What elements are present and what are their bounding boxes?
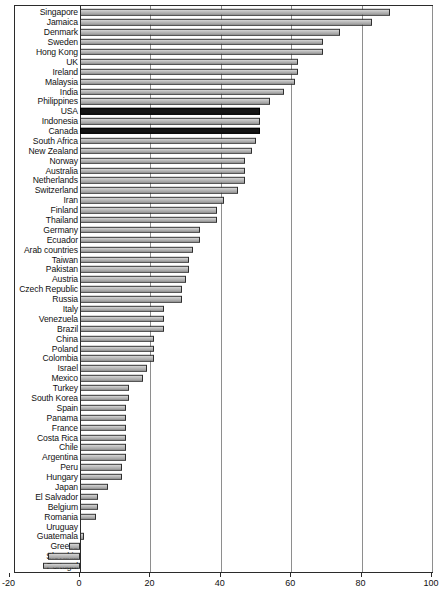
bar <box>80 504 98 510</box>
bar <box>80 148 252 154</box>
bar <box>80 266 189 272</box>
category-label: Australia <box>45 166 78 175</box>
bar <box>80 286 182 292</box>
x-tick-40 <box>220 573 221 577</box>
category-label: Japan <box>55 482 78 491</box>
bar <box>80 187 238 193</box>
category-label: Finland <box>51 206 79 215</box>
category-label: New Zealand <box>28 146 78 155</box>
bar <box>80 217 217 223</box>
bar <box>43 563 80 569</box>
category-label: Colombia <box>42 354 78 363</box>
bar <box>80 494 98 500</box>
category-label: Italy <box>63 305 78 314</box>
category-label: Sweden <box>48 38 78 47</box>
category-label: India <box>60 87 78 96</box>
bar-row: Denmark <box>15 27 432 37</box>
bar <box>80 276 186 282</box>
bar <box>80 138 256 144</box>
bar <box>80 296 182 302</box>
plot-area: SingaporeJamaicaDenmarkSwedenHong KongUK… <box>14 5 433 573</box>
x-tick-label: 100 <box>423 578 438 588</box>
bar <box>80 158 245 164</box>
bar <box>80 454 126 460</box>
bar <box>80 355 154 361</box>
category-label: Belgium <box>48 502 78 511</box>
bar <box>80 128 260 134</box>
bar <box>80 365 147 371</box>
category-label: Peru <box>60 463 78 472</box>
category-label: Hong Kong <box>36 47 78 56</box>
bar <box>80 118 260 124</box>
category-label: Guatemala <box>37 532 78 541</box>
category-label: Singapore <box>40 8 78 17</box>
bar-rows: SingaporeJamaicaDenmarkSwedenHong KongUK… <box>15 6 432 572</box>
gridline-100 <box>432 6 433 572</box>
category-label: Panama <box>47 413 78 422</box>
x-tick-label: 20 <box>144 578 154 588</box>
bar <box>80 533 84 539</box>
category-label: China <box>56 334 78 343</box>
bar <box>80 345 154 351</box>
bar <box>80 395 129 401</box>
x-tick-label: 60 <box>285 578 295 588</box>
x-tick-60 <box>290 573 291 577</box>
category-label: Switzerland <box>35 186 78 195</box>
bar <box>80 246 193 252</box>
x-tick-100 <box>431 573 432 577</box>
bar <box>80 177 245 183</box>
category-label: Venezuela <box>39 314 78 323</box>
category-label: Israel <box>58 364 78 373</box>
bar <box>80 444 126 450</box>
category-label: Czech Republic <box>19 285 78 294</box>
bar <box>80 39 323 45</box>
category-label: Arab countries <box>24 245 78 254</box>
bar <box>80 464 122 470</box>
bar <box>80 19 372 25</box>
x-tick--20 <box>9 573 10 577</box>
bar <box>80 256 189 262</box>
category-label: South Korea <box>31 393 78 402</box>
category-label: Taiwan <box>52 255 78 264</box>
bar <box>80 49 323 55</box>
category-label: USA <box>61 107 78 116</box>
category-label: Philippines <box>38 97 78 106</box>
x-tick-label: -20 <box>2 578 15 588</box>
bar <box>80 424 126 430</box>
category-label: South Africa <box>33 136 78 145</box>
category-label: Pakistan <box>46 265 78 274</box>
bar <box>80 78 295 84</box>
bar-row: South Korea <box>15 393 432 403</box>
x-axis: -20020406080100 <box>14 573 433 595</box>
bar-row: Portugal <box>15 561 432 571</box>
category-label: Costa Rica <box>37 433 78 442</box>
category-label: Netherlands <box>33 176 78 185</box>
category-label: Hungary <box>46 473 78 482</box>
bar <box>48 553 80 559</box>
category-label: El Salvador <box>35 492 78 501</box>
bar-chart: SingaporeJamaicaDenmarkSwedenHong KongUK… <box>0 0 440 609</box>
bar <box>80 385 129 391</box>
category-label: Uruguay <box>46 522 78 531</box>
category-label: Russia <box>52 295 78 304</box>
category-label: Denmark <box>44 28 78 37</box>
x-tick-label: 80 <box>356 578 366 588</box>
category-label: Spain <box>57 403 78 412</box>
category-label: Brazil <box>57 324 78 333</box>
bar <box>80 237 200 243</box>
bar <box>69 543 80 549</box>
x-tick-20 <box>149 573 150 577</box>
category-label: Poland <box>52 344 78 353</box>
bar-row: India <box>15 87 432 97</box>
category-label: Jamaica <box>47 18 78 27</box>
bar <box>80 484 108 490</box>
category-label: Iran <box>64 196 78 205</box>
category-label: Thailand <box>46 216 78 225</box>
bar <box>80 59 298 65</box>
bar <box>80 29 340 35</box>
category-label: Turkey <box>53 384 78 393</box>
category-label: Ecuador <box>47 235 78 244</box>
category-label: Romania <box>44 512 78 521</box>
bar <box>80 306 164 312</box>
bar <box>80 9 390 15</box>
